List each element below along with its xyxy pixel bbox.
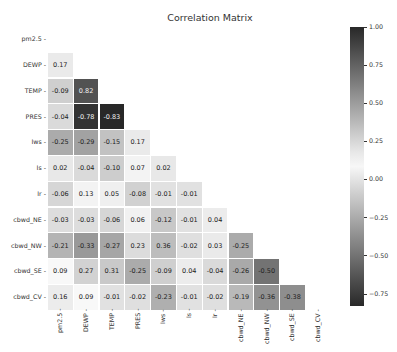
heatmap-cell: -0.25 bbox=[48, 130, 73, 155]
heatmap-cell: -0.21 bbox=[48, 233, 73, 258]
heatmap-cell: -0.01 bbox=[100, 285, 125, 310]
x-tick-label: TEMP - bbox=[108, 308, 115, 329]
heatmap-cell: -0.10 bbox=[100, 156, 125, 181]
heatmap-cell: -0.25 bbox=[125, 259, 150, 284]
x-tick-label: pm2.5 - bbox=[56, 308, 63, 332]
heatmap-cell: 0.04 bbox=[177, 259, 202, 284]
heatmap-cell: 0.06 bbox=[125, 208, 150, 233]
x-tick-label: DEWP - bbox=[82, 309, 89, 332]
x-tick-label: PRES - bbox=[134, 308, 141, 328]
heatmap-cell: 0.27 bbox=[74, 259, 99, 284]
heatmap-cell: 0.05 bbox=[100, 182, 125, 207]
heatmap-cell: -0.02 bbox=[177, 233, 202, 258]
colorbar-tick-label: 0.25 bbox=[364, 137, 383, 144]
y-tick-label: TEMP - bbox=[25, 87, 46, 94]
heatmap-cell: -0.01 bbox=[177, 285, 202, 310]
colorbar-tick-label: 0.50 bbox=[364, 99, 383, 106]
heatmap-cell: -0.33 bbox=[74, 233, 99, 258]
heatmap-cell: -0.19 bbox=[229, 285, 254, 310]
y-tick-label: DEWP - bbox=[23, 61, 46, 68]
heatmap-cell: -0.09 bbox=[151, 259, 176, 284]
colorbar-tick-label: 0.75 bbox=[364, 61, 383, 68]
heatmap-cell: 0.02 bbox=[151, 156, 176, 181]
heatmap-cell: -0.26 bbox=[229, 259, 254, 284]
heatmap-cell: 0.09 bbox=[74, 285, 99, 310]
heatmap-cell: 0.31 bbox=[100, 259, 125, 284]
heatmap-cell: -0.09 bbox=[48, 79, 73, 104]
y-tick-label: cbwd_NE - bbox=[13, 216, 46, 223]
colorbar-tick-label: −0.50 bbox=[364, 252, 388, 259]
heatmap-cell: 0.17 bbox=[125, 130, 150, 155]
heatmap-cell: -0.01 bbox=[177, 182, 202, 207]
colorbar-tick-label: 0.00 bbox=[364, 175, 383, 182]
y-tick-label: PRES - bbox=[26, 113, 46, 120]
heatmap-cell: 0.03 bbox=[203, 233, 228, 258]
heatmap-cell: -0.78 bbox=[74, 104, 99, 129]
heatmap-cell: 0.02 bbox=[48, 156, 73, 181]
heatmap-cell: -0.38 bbox=[280, 285, 305, 310]
colorbar-tick-label: 1.00 bbox=[364, 23, 383, 30]
heatmap-cell: -0.27 bbox=[100, 233, 125, 258]
colorbar bbox=[350, 27, 364, 306]
heatmap-cell: 0.13 bbox=[74, 182, 99, 207]
heatmap-cell: 0.82 bbox=[74, 79, 99, 104]
x-tick-label: cbwd_CV - bbox=[314, 309, 321, 342]
y-tick-label: cbwd_CV - bbox=[13, 293, 46, 300]
x-tick-label: cbwd_SE - bbox=[288, 309, 295, 341]
heatmap-cell: -0.03 bbox=[48, 208, 73, 233]
correlation-heatmap: Correlation Matrix pm2.5 -DEWP -TEMP -PR… bbox=[0, 0, 397, 352]
heatmap-cell: -0.03 bbox=[74, 208, 99, 233]
heatmap-cell: -0.50 bbox=[254, 259, 279, 284]
heatmap-cell: -0.01 bbox=[177, 208, 202, 233]
x-tick-label: Ir - bbox=[211, 309, 218, 318]
x-tick-label: Is - bbox=[185, 308, 192, 317]
heatmap-cell: -0.25 bbox=[229, 233, 254, 258]
heatmap-cell: -0.06 bbox=[100, 208, 125, 233]
heatmap-cell: -0.83 bbox=[100, 104, 125, 129]
heatmap-cell: -0.12 bbox=[151, 208, 176, 233]
y-tick-label: Is - bbox=[37, 164, 46, 171]
heatmap-cell: -0.04 bbox=[74, 156, 99, 181]
x-tick-label: cbwd_NE - bbox=[237, 309, 244, 342]
heatmap-cell: 0.16 bbox=[48, 285, 73, 310]
y-tick-label: cbwd_SE - bbox=[14, 267, 46, 274]
heatmap-cell: -0.02 bbox=[203, 285, 228, 310]
heatmap-cell: -0.23 bbox=[151, 285, 176, 310]
y-tick-label: cbwd_NW - bbox=[11, 242, 46, 249]
heatmap-cell: -0.06 bbox=[48, 182, 73, 207]
heatmap-cell: -0.01 bbox=[151, 182, 176, 207]
heatmap-cell: 0.04 bbox=[203, 208, 228, 233]
heatmap-cell: -0.04 bbox=[203, 259, 228, 284]
chart-title: Correlation Matrix bbox=[150, 12, 270, 23]
x-tick-label: Iws - bbox=[159, 309, 166, 324]
colorbar-tick-label: −0.75 bbox=[364, 290, 388, 297]
colorbar-tick-label: −0.25 bbox=[364, 214, 388, 221]
heatmap-cell: 0.17 bbox=[48, 53, 73, 78]
y-tick-label: Ir - bbox=[37, 190, 46, 197]
heatmap-cell: -0.15 bbox=[100, 130, 125, 155]
y-axis-labels: pm2.5 -DEWP -TEMP -PRES -Iws -Is -Ir -cb… bbox=[0, 0, 47, 352]
heatmap-cell: -0.36 bbox=[254, 285, 279, 310]
heatmap-cell: 0.09 bbox=[48, 259, 73, 284]
heatmap-cell: -0.29 bbox=[74, 130, 99, 155]
heatmap-cell: -0.02 bbox=[125, 285, 150, 310]
x-tick-label: cbwd_NW - bbox=[263, 309, 270, 344]
heatmap-cell: -0.08 bbox=[125, 182, 150, 207]
heatmap-cell: -0.04 bbox=[48, 104, 73, 129]
heatmap-cell: 0.07 bbox=[125, 156, 150, 181]
heatmap-cell: 0.23 bbox=[125, 233, 150, 258]
heatmap-cell: 0.36 bbox=[151, 233, 176, 258]
y-tick-label: Iws - bbox=[31, 138, 46, 145]
y-tick-label: pm2.5 - bbox=[22, 35, 46, 42]
